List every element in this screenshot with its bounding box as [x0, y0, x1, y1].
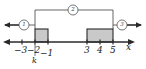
arrow-left-icon — [3, 39, 10, 45]
figure-canvas: 1 2 3 −3 −2 −1 3 4 5 x k — [0, 0, 146, 69]
tick-label-5: 5 — [110, 46, 116, 55]
tick-label-minus2: −2 — [27, 46, 40, 55]
left-pulse — [35, 29, 48, 42]
tick-label-4: 4 — [97, 46, 103, 55]
callout-left-label: 1 — [19, 22, 29, 28]
x-axis-label: x — [126, 43, 131, 52]
tick-label-minus3: −3 — [14, 46, 27, 55]
callout-right-label: 3 — [117, 22, 127, 28]
tick-label-3: 3 — [84, 46, 90, 55]
tick-label-minus1: −1 — [40, 49, 53, 58]
k-label: k — [32, 57, 37, 65]
callout-top-label: 2 — [68, 7, 78, 13]
